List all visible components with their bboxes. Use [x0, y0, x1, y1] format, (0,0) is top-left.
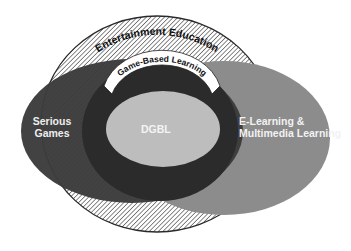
- dgbl-label: DGBL: [141, 123, 171, 135]
- venn-diagram: Entertainment Education Game-Based Learn…: [0, 0, 351, 251]
- e-learning-label-line2: Multimedia Learning: [239, 127, 341, 139]
- serious-games-label-line2: Games: [34, 127, 69, 139]
- e-learning-label-line1: E-Learning &: [239, 115, 305, 127]
- serious-games-label-line1: Serious: [33, 115, 72, 127]
